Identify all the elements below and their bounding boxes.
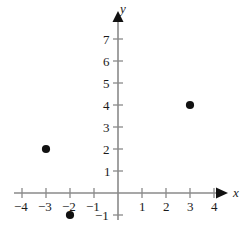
y-tick-label-4: 4: [103, 99, 110, 112]
x-tick-label-1: 1: [139, 200, 146, 213]
data-point-a: [42, 145, 50, 153]
y-tick-label--1: −1: [95, 209, 109, 222]
x-tick-label-2: 2: [163, 200, 170, 213]
x-axis-arrowhead: [216, 188, 228, 199]
x-tick-label-3: 3: [187, 200, 194, 213]
y-tick-label-2: 2: [103, 143, 110, 156]
y-tick-label-1: 1: [104, 165, 111, 178]
x-tick-label--4: −4: [14, 200, 28, 213]
coordinate-plane: −4 −3 −2 −1 1 2 3 4 7 6 5 4 3 2 1 −1 y x: [0, 0, 250, 230]
axes-and-points-graphic: [0, 0, 250, 230]
data-point-c: [186, 101, 194, 109]
y-tick-label-5: 5: [103, 77, 110, 90]
y-tick-label-7: 7: [103, 33, 110, 46]
x-axis-label: x: [233, 186, 239, 199]
x-tick-label--3: −3: [38, 200, 52, 213]
y-tick-label-3: 3: [103, 121, 110, 134]
y-axis-label: y: [120, 2, 126, 15]
x-tick-label--2: −2: [62, 200, 76, 213]
y-tick-label-6: 6: [103, 55, 110, 68]
x-tick-label-4: 4: [211, 200, 218, 213]
